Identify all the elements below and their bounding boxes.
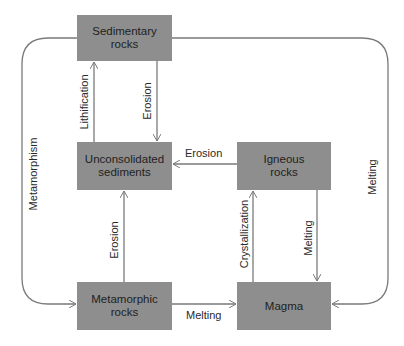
- node-label: rocks: [92, 38, 157, 51]
- node-igneous-rocks: Igneous rocks: [237, 142, 331, 190]
- label-melting-met: Melting: [186, 309, 221, 321]
- node-label: rocks: [264, 166, 305, 179]
- node-label: Magma: [265, 300, 303, 313]
- node-unconsolidated-sediments: Unconsolidated sediments: [77, 142, 172, 190]
- label-crystallization: Crystallization: [238, 200, 250, 268]
- node-label: Unconsolidated: [85, 153, 164, 166]
- node-label: rocks: [91, 306, 157, 319]
- node-sedimentary-rocks: Sedimentary rocks: [77, 15, 172, 61]
- label-erosion-met: Erosion: [108, 221, 120, 258]
- label-metamorphism: Metamorphism: [27, 138, 39, 211]
- label-lithification: Lithification: [78, 74, 90, 129]
- node-metamorphic-rocks: Metamorphic rocks: [77, 282, 172, 330]
- label-erosion-sed: Erosion: [141, 82, 153, 119]
- label-erosion-ign: Erosion: [185, 147, 222, 159]
- node-magma: Magma: [237, 282, 331, 330]
- label-melting-loop: Melting: [366, 159, 378, 194]
- rock-cycle-connectors: [0, 0, 404, 346]
- node-label: Igneous: [264, 153, 305, 166]
- node-label: sediments: [85, 166, 164, 179]
- node-label: Metamorphic: [91, 293, 157, 306]
- node-label: Sedimentary: [92, 25, 157, 38]
- label-melting-ign: Melting: [302, 220, 314, 255]
